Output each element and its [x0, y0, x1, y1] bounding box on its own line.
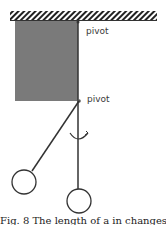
bottom-pivot-label: pivot	[87, 95, 110, 104]
top-pivot-point	[77, 21, 80, 24]
displaced-pendulum-bob	[12, 170, 36, 194]
ceiling-hatch	[10, 11, 157, 20]
vertical-pendulum-bob	[67, 189, 91, 213]
rotation-arrow-icon	[70, 133, 88, 139]
gray-block	[15, 21, 78, 101]
pendulum-diagram: pivot pivot Fig. 8 The length of a in ch…	[0, 0, 166, 225]
top-pivot-label: pivot	[86, 27, 109, 36]
diagram-canvas	[0, 0, 166, 225]
figure-caption: Fig. 8 The length of a in changes	[0, 216, 166, 225]
